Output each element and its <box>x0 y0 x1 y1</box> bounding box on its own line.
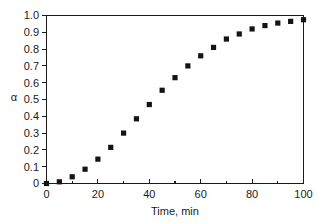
data-point-marker <box>275 20 280 25</box>
x-axis-title: Time, min <box>151 205 199 217</box>
data-point-marker <box>288 19 293 24</box>
y-tick-label: 0.3 <box>24 127 39 139</box>
y-tick-label: 0.1 <box>24 161 39 173</box>
data-point-marker <box>172 75 177 80</box>
data-point-marker <box>121 131 126 136</box>
x-tick-label: 60 <box>195 188 207 200</box>
x-tick-label: 20 <box>92 188 104 200</box>
data-point-marker <box>198 53 203 58</box>
data-point-marker <box>95 157 100 162</box>
y-tick-label: 0.2 <box>24 144 39 156</box>
data-point-marker <box>211 45 216 50</box>
data-point-marker <box>44 181 49 186</box>
x-tick-label: 80 <box>246 188 258 200</box>
scatter-plot-canvas: 020406080100 00.10.20.30.40.50.60.70.80.… <box>0 0 319 223</box>
data-point-marker <box>237 31 242 36</box>
data-point-marker <box>160 88 165 93</box>
y-tick-label: 0.7 <box>24 60 39 72</box>
y-tick-label: 0.5 <box>24 93 39 105</box>
x-tick-label: 0 <box>43 188 49 200</box>
data-point-marker <box>70 174 75 179</box>
y-tick-label: 0.9 <box>24 26 39 38</box>
y-axis-tick-marks <box>42 16 47 184</box>
x-axis-tick-marks <box>47 179 304 184</box>
data-series-alpha <box>44 17 306 186</box>
chart-figure: 020406080100 00.10.20.30.40.50.60.70.80.… <box>0 0 319 223</box>
x-tick-label: 100 <box>294 188 312 200</box>
y-axis-title: α <box>11 91 18 103</box>
data-point-marker <box>250 26 255 31</box>
data-point-marker <box>185 63 190 68</box>
y-tick-label: 1.0 <box>24 9 39 21</box>
x-axis-tick-labels: 020406080100 <box>43 188 312 200</box>
data-point-marker <box>224 36 229 41</box>
data-point-marker <box>82 167 87 172</box>
data-point-marker <box>262 23 267 28</box>
x-tick-label: 40 <box>143 188 155 200</box>
data-point-marker <box>147 102 152 107</box>
y-tick-label: 0.4 <box>24 110 39 122</box>
data-point-marker <box>108 145 113 150</box>
data-point-marker <box>134 116 139 121</box>
y-tick-label: 0 <box>33 177 39 189</box>
y-axis-tick-labels: 00.10.20.30.40.50.60.70.80.91.0 <box>24 9 39 189</box>
y-tick-label: 0.8 <box>24 43 39 55</box>
plot-frame <box>47 16 304 184</box>
y-tick-label: 0.6 <box>24 77 39 89</box>
data-point-marker <box>301 17 306 22</box>
data-point-marker <box>57 179 62 184</box>
